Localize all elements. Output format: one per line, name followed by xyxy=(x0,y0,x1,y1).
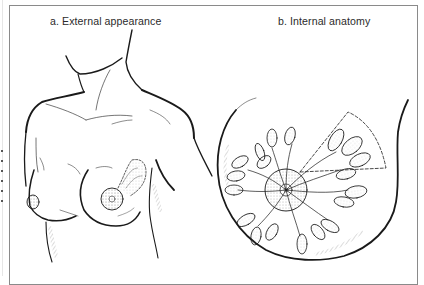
panel-b-label: b. Internal anatomy xyxy=(278,15,370,27)
panel-a-label: a. External appearance xyxy=(50,15,161,27)
panel-a-torso xyxy=(25,30,213,262)
panel-b-cross-section xyxy=(218,98,408,260)
